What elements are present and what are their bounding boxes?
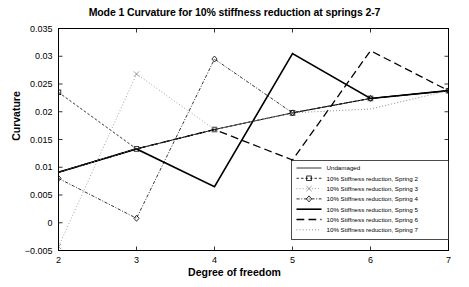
legend-label-5: 10% Stiffness reduction, Spring 6 xyxy=(327,216,419,223)
y-tick-label: 0 xyxy=(47,218,52,228)
series-line-0 xyxy=(59,91,449,173)
chart-figure: Mode 1 Curvature for 10% stiffness reduc… xyxy=(0,0,469,287)
plot-area: 234567−0.00500.0050.010.0150.020.0250.03… xyxy=(0,0,469,287)
y-tick-label: −0.005 xyxy=(25,246,53,256)
legend-label-2: 10% Stiffness reduction, Spring 3 xyxy=(327,185,419,192)
legend-label-0: Undamaged xyxy=(327,164,361,171)
y-tick-label: 0.025 xyxy=(30,79,53,89)
x-tick-label: 4 xyxy=(212,255,217,265)
y-tick-label: 0.03 xyxy=(35,51,53,61)
x-tick-label: 2 xyxy=(56,255,61,265)
x-tick-label: 6 xyxy=(368,255,373,265)
y-tick-label: 0.02 xyxy=(35,107,53,117)
y-tick-label: 0.005 xyxy=(30,190,53,200)
legend: Undamaged10% Stiffness reduction, Spring… xyxy=(292,161,449,240)
legend-label-3: 10% Stiffness reduction, Spring 4 xyxy=(327,195,419,202)
y-tick-label: 0.01 xyxy=(35,162,53,172)
legend-label-1: 10% Stiffness reduction, Spring 2 xyxy=(327,175,419,182)
y-tick-label: 0.035 xyxy=(30,24,53,34)
series-line-6 xyxy=(59,91,449,173)
y-tick-label: 0.015 xyxy=(30,135,53,145)
x-tick-label: 5 xyxy=(290,255,295,265)
x-tick-label: 3 xyxy=(134,255,139,265)
legend-label-6: 10% Stiffness reduction, Spring 7 xyxy=(327,226,419,233)
x-tick-label: 7 xyxy=(446,255,451,265)
legend-label-4: 10% Stiffness reduction, Spring 5 xyxy=(327,206,419,213)
